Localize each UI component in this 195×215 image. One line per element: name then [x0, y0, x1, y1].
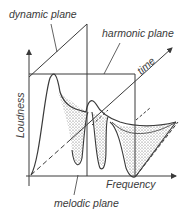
frequency-label: Frequency — [106, 178, 156, 190]
melodic-plane-leader — [74, 175, 78, 195]
dynamic-plane-leader — [51, 24, 57, 52]
melodic-plane-label: melodic plane — [54, 197, 119, 209]
diagram-canvas: dynamic plane harmonic plane time Loudne… — [0, 0, 195, 215]
harmonic-plane-label: harmonic plane — [102, 27, 174, 39]
loudness-label: Loudness — [14, 92, 26, 138]
sound-planes-diagram: dynamic plane harmonic plane time Loudne… — [0, 0, 195, 215]
harmonic-plane-leader — [104, 43, 120, 74]
dynamic-plane-label: dynamic plane — [9, 8, 77, 20]
dynamic-plane-diagonal — [29, 24, 87, 77]
time-label: time — [134, 54, 157, 76]
